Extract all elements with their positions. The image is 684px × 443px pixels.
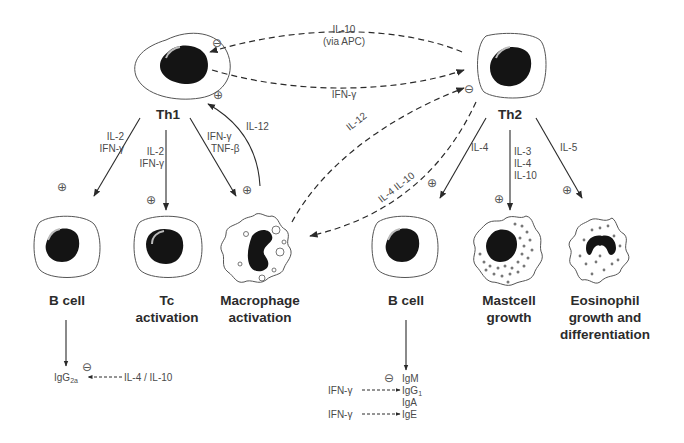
minus-sign-icon: ⊖ xyxy=(384,372,394,384)
ifn-gamma-th1-th2-label: IFN-γ xyxy=(324,89,364,101)
th2-cell xyxy=(478,33,547,98)
il4-il10-inhibitor-label: IL-4 / IL-10 xyxy=(124,372,172,384)
macrophage-label: Macrophage activation xyxy=(220,292,300,326)
th1-bcell-cytokines: IL-2 IFN-γ xyxy=(80,131,124,155)
b-cell-right xyxy=(372,216,438,277)
edge-th1-to-th2 xyxy=(212,70,464,88)
th2-label: Th2 xyxy=(498,106,522,123)
mastcell-label: Mastcell growth xyxy=(482,292,535,326)
th1-label: Th1 xyxy=(156,106,180,123)
plus-sign-icon: ⊕ xyxy=(213,89,223,101)
th2-bcell-il4-label: IL-4 xyxy=(471,142,488,154)
mastcell-cell xyxy=(474,216,543,285)
edge-th2-to-bcell xyxy=(440,118,486,198)
ifn-gamma-ige-label: IFN-γ xyxy=(328,409,352,421)
plus-sign-icon: ⊕ xyxy=(242,184,252,196)
igg2a-label: IgG2a xyxy=(54,372,78,387)
plus-sign-icon: ⊕ xyxy=(146,194,156,206)
tc-label: Tc activation xyxy=(135,292,198,326)
macrophage-cell xyxy=(221,214,291,283)
b-cell-left-label: B cell xyxy=(49,292,85,309)
plus-sign-icon: ⊕ xyxy=(57,181,67,193)
diagram-canvas xyxy=(0,0,684,443)
b-cell-right-label: B cell xyxy=(388,292,424,309)
igm-label: IgM xyxy=(402,373,419,385)
eosinophil-cell xyxy=(569,218,629,283)
macrophage-th1-il12-label: IL-12 xyxy=(246,121,269,133)
il10-via-apc-label: IL-10 (via APC) xyxy=(314,24,374,48)
ige-label: IgE xyxy=(402,409,417,421)
th2-mastcell-cytokines: IL-3 IL-4 IL-10 xyxy=(514,146,537,182)
b-cell-left xyxy=(34,216,100,277)
minus-sign-icon: ⊖ xyxy=(82,361,92,373)
tc-cell xyxy=(134,216,202,277)
edge-th2-to-eosinophil xyxy=(536,118,582,198)
edge-macrophage-to-th2 xyxy=(292,88,464,222)
plus-sign-icon: ⊕ xyxy=(494,193,504,205)
plus-sign-icon: ⊕ xyxy=(427,177,437,189)
ifn-gamma-igg1-label: IFN-γ xyxy=(328,385,352,397)
minus-sign-icon: ⊖ xyxy=(464,83,474,95)
th1-tc-cytokines: IL-2 IFN-γ xyxy=(120,146,164,170)
th2-eosinophil-il5-label: IL-5 xyxy=(560,142,577,154)
minus-sign-icon: ⊖ xyxy=(212,37,222,49)
th1-macrophage-cytokines: IFN-γ TNF-β xyxy=(207,131,240,155)
eosinophil-label: Eosinophil growth and differentiation xyxy=(560,292,650,343)
edge-th1-to-macrophage xyxy=(190,118,236,196)
plus-sign-icon: ⊕ xyxy=(562,184,572,196)
iga-label: IgA xyxy=(402,397,417,409)
th1-th2-cytokine-diagram: Th1 Th2 B cell Tc activation Macrophage … xyxy=(0,0,684,443)
